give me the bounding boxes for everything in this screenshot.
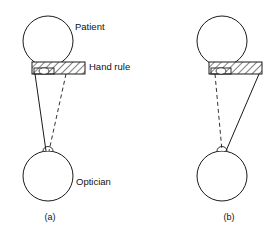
panel-b: (b)	[197, 16, 262, 222]
hand-rule-lens-marker-b	[216, 68, 226, 74]
patient-label: Patient	[75, 21, 105, 32]
solid-sight-line-a	[35, 74, 46, 151]
patient-head-a	[23, 16, 73, 66]
figure-container: Patient Hand rule Optician (a) (b)	[0, 0, 276, 232]
dashed-sight-line-a	[49, 74, 66, 151]
hand-rule-figure: Patient Hand rule Optician (a) (b)	[0, 0, 276, 232]
optician-head-b	[197, 151, 247, 201]
patient-head-b	[197, 16, 247, 66]
dashed-sight-line-b	[215, 74, 222, 151]
panel-caption-a: (a)	[45, 212, 56, 222]
panel-a: Patient Hand rule Optician (a)	[23, 16, 130, 222]
optician-nose-a	[43, 147, 53, 152]
optician-label: Optician	[76, 176, 111, 187]
panel-caption-b: (b)	[224, 212, 235, 222]
solid-sight-line-b	[226, 74, 259, 151]
hand-rule-lens-marker-a	[39, 68, 49, 74]
optician-head-a	[23, 151, 73, 201]
hand-rule-label: Hand rule	[89, 61, 130, 72]
